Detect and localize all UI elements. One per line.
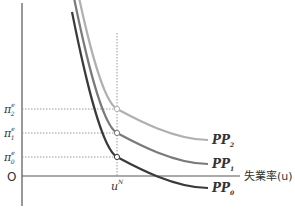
curve-name: PP [211, 157, 231, 171]
curve-pp1 [72, 0, 208, 164]
curve-subscript: 1 [230, 165, 234, 172]
intersection-marker-0 [114, 154, 119, 159]
curve-label-pp2: PP2 [211, 133, 234, 148]
curve-label-pp1: PP1 [211, 157, 234, 172]
tick-superscript: e [11, 125, 15, 132]
natural-rate-label: uN [111, 178, 124, 193]
curve-name: PP [211, 133, 231, 147]
natural-rate-symbol: u [111, 180, 118, 193]
phillips-curve-diagram: 失業率(u) O PP2PP1PP0 πe2πe1πe0 uN [0, 0, 295, 210]
curve-label-pp0: PP0 [211, 181, 235, 196]
tick-superscript: e [11, 149, 15, 156]
tick-superscript: e [11, 101, 15, 108]
intersection-marker-2 [114, 106, 119, 111]
tick-subscript: 0 [11, 158, 15, 165]
y-tick-label-2: πe2 [3, 101, 15, 117]
origin-label: O [7, 170, 16, 184]
intersection-marker-1 [114, 130, 119, 135]
y-tick-label-0: πe0 [3, 149, 15, 165]
curve-pp2 [72, 0, 208, 140]
y-tick-label-1: πe1 [3, 125, 15, 141]
x-axis-label: 失業率(u) [244, 169, 293, 183]
natural-rate-superscript: N [117, 178, 124, 185]
curve-subscript: 0 [230, 189, 235, 196]
tick-subscript: 1 [11, 134, 15, 141]
curve-subscript: 2 [229, 141, 234, 148]
curve-name: PP [211, 181, 231, 195]
tick-subscript: 2 [10, 110, 15, 117]
